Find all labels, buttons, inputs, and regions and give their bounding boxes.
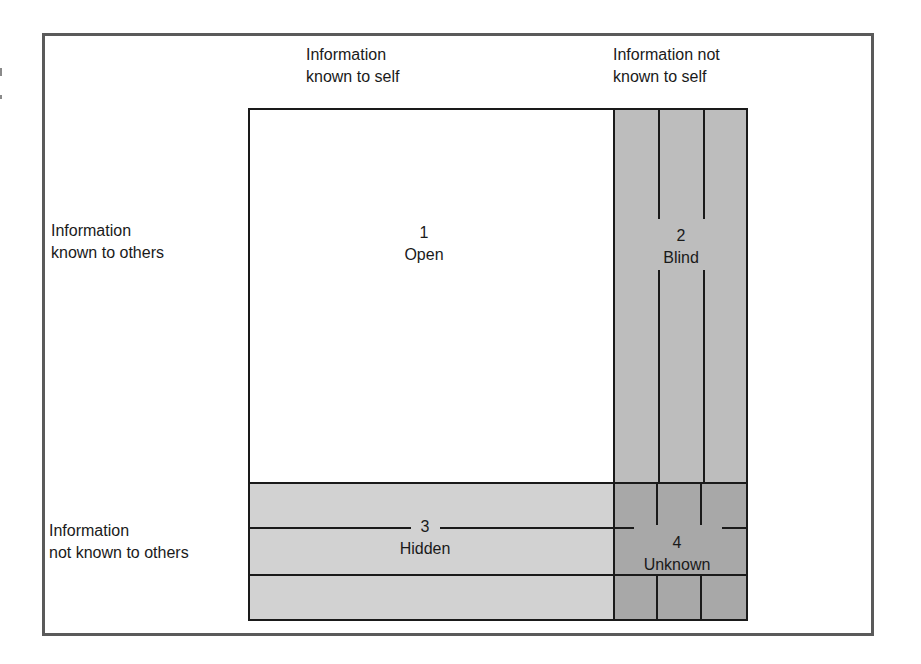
row-header-line1: Information <box>51 220 164 242</box>
row-header-line2: known to others <box>51 242 164 264</box>
grid-divider-horizontal <box>249 482 748 484</box>
unknown-horizontal-line <box>614 527 634 529</box>
quadrant-number: 2 <box>641 225 721 247</box>
column-header-line1: Information <box>306 44 399 66</box>
grid-border-left <box>248 108 250 621</box>
quadrant-blind <box>614 109 747 484</box>
grid-divider-vertical <box>613 108 615 621</box>
quadrant-blind-label: 2 Blind <box>641 225 721 269</box>
row-header-line2: not known to others <box>49 542 189 564</box>
row-header-known-to-others: Information known to others <box>51 220 164 264</box>
edge-artifact <box>0 95 2 99</box>
quadrant-unknown-label: 4 Unknown <box>637 532 717 576</box>
column-header-line1: Information not <box>613 44 720 66</box>
column-header-line2: known to self <box>306 66 399 88</box>
quadrant-open-label: 1 Open <box>384 222 464 266</box>
column-header-not-known-to-self: Information not known to self <box>613 44 720 88</box>
blind-vertical-line <box>658 270 660 483</box>
grid-border-bottom <box>249 619 748 621</box>
hidden-horizontal-line <box>440 527 615 529</box>
row-header-line1: Information <box>49 520 189 542</box>
unknown-vertical-line <box>700 483 702 525</box>
blind-vertical-line <box>658 109 660 219</box>
quadrant-number: 1 <box>384 222 464 244</box>
column-header-line2: known to self <box>613 66 720 88</box>
column-header-known-to-self: Information known to self <box>306 44 399 88</box>
unknown-horizontal-line <box>722 527 747 529</box>
row-header-not-known-to-others: Information not known to others <box>49 520 189 564</box>
unknown-vertical-line <box>656 575 658 620</box>
quadrant-open <box>249 109 615 484</box>
blind-vertical-line <box>703 109 705 219</box>
blind-vertical-line <box>703 270 705 483</box>
quadrant-name: Unknown <box>637 554 717 576</box>
quadrant-number: 4 <box>637 532 717 554</box>
quadrant-name: Open <box>384 244 464 266</box>
quadrant-number: 3 <box>385 516 465 538</box>
edge-artifact <box>0 68 2 76</box>
quadrant-name: Blind <box>641 247 721 269</box>
unknown-vertical-line <box>700 575 702 620</box>
quadrant-name: Hidden <box>385 538 465 560</box>
grid-border-right <box>746 108 748 621</box>
grid-border-top <box>249 108 748 110</box>
quadrant-hidden-label: 3 Hidden <box>385 516 465 560</box>
unknown-vertical-line <box>656 483 658 525</box>
